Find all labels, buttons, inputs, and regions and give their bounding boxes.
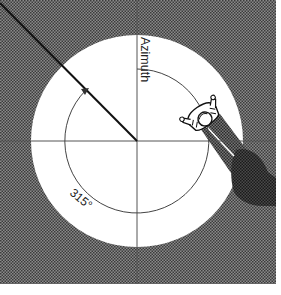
azimuth-label: Azimuth xyxy=(138,37,152,82)
azimuth-diagram: Azimuth 315° xyxy=(0,0,281,295)
